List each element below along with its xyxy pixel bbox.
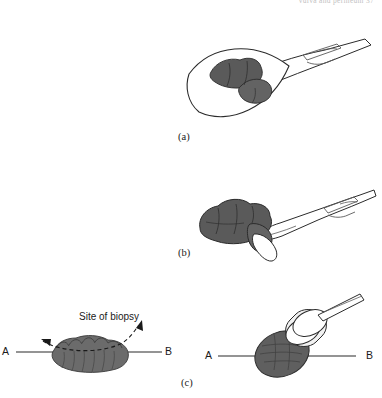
endpoint-a-right: A — [205, 349, 212, 361]
panel-c-right-artwork — [198, 298, 373, 378]
punch-biopsy-tool-icon — [282, 294, 364, 350]
panel-b-artwork — [196, 178, 376, 278]
panel-a-artwork — [185, 32, 375, 147]
running-head: vulva and perineum 37 — [299, 0, 374, 5]
pigmented-lesion-profile — [52, 336, 128, 373]
endpoint-a-left: A — [2, 345, 9, 357]
pigmented-lesion — [200, 199, 277, 261]
panel-label-b: (b) — [178, 247, 190, 258]
figure-root: vulva and perineum 37 (a) — [0, 0, 382, 398]
endpoint-b-right: B — [366, 349, 373, 361]
site-of-biopsy-label: Site of biopsy — [79, 311, 139, 322]
panel-label-c: (c) — [181, 377, 193, 388]
panel-label-a: (a) — [178, 131, 190, 142]
endpoint-b-left: B — [165, 345, 172, 357]
